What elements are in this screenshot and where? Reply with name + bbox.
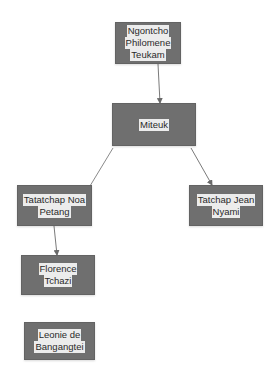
edge-miteuk-tatchap-jean: [191, 148, 212, 185]
edge-tatatchap-noa-florence: [54, 226, 57, 255]
node-label-line: Teukam: [130, 49, 165, 61]
node-florence-tchazi[interactable]: Florence Tchazi: [21, 255, 95, 295]
node-label: Leonie de Bangangtei: [34, 329, 84, 353]
edge-ngontcho-miteuk: [158, 64, 160, 103]
node-label-line: Florence: [39, 263, 78, 275]
node-label-line: Tatchap Jean: [197, 194, 256, 206]
node-label-line: Bangangtei: [34, 341, 84, 353]
node-label-line: Ngontcho: [127, 25, 170, 37]
node-label-line: Tchazi: [44, 275, 73, 287]
node-label-line: Leonie de: [38, 329, 82, 341]
node-label-line: Miteuk: [139, 119, 169, 131]
node-leonie-de-bangangtei[interactable]: Leonie de Bangangtei: [24, 322, 95, 360]
node-tatchap-jean-nyami[interactable]: Tatchap Jean Nyami: [189, 185, 263, 226]
node-label-line: Philomene: [125, 37, 172, 49]
node-label: Florence Tchazi: [39, 263, 78, 287]
node-label: Tatchap Jean Nyami: [197, 194, 256, 218]
family-tree-diagram: Ngontcho Philomene Teukam Miteuk Tatatch…: [0, 0, 275, 385]
node-tatatchap-noa-petang[interactable]: Tatatchap Noa Petang: [17, 185, 92, 226]
node-miteuk[interactable]: Miteuk: [112, 103, 196, 146]
edge-miteuk-tatatchap-noa: [90, 148, 113, 186]
node-ngontcho-philomene-teukam[interactable]: Ngontcho Philomene Teukam: [115, 22, 181, 64]
node-label-line: Tatatchap Noa: [23, 194, 86, 206]
node-label-line: Petang: [38, 206, 70, 218]
node-label: Miteuk: [139, 119, 169, 131]
node-label: Tatatchap Noa Petang: [23, 194, 86, 218]
node-label: Ngontcho Philomene Teukam: [125, 25, 172, 61]
node-label-line: Nyami: [212, 206, 241, 218]
